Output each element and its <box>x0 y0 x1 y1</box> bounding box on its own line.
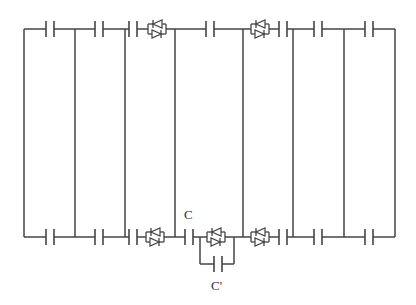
capacitor-icon <box>95 229 103 245</box>
capacitor-icon <box>206 21 214 37</box>
capacitor-icon <box>129 229 137 245</box>
capacitor-icon <box>365 21 373 37</box>
capacitor-icon <box>129 21 137 37</box>
circuit-diagram: C C' <box>0 0 416 305</box>
capacitor-icon <box>279 229 287 245</box>
capacitor-icon <box>314 229 322 245</box>
antiparallel-diode-icon <box>205 228 227 246</box>
capacitor-icon <box>95 21 103 37</box>
antiparallel-diode-icon <box>146 20 168 38</box>
capacitor-icon <box>279 21 287 37</box>
capacitor-icon <box>314 21 322 37</box>
label-c: C <box>184 207 193 222</box>
capacitor-icon <box>46 229 54 245</box>
label-c-prime: C' <box>211 278 222 293</box>
antiparallel-diode-icon <box>249 228 271 246</box>
capacitor-icon <box>365 229 373 245</box>
capacitor-icon <box>46 21 54 37</box>
capacitor-c-icon <box>185 229 193 245</box>
capacitor-c-prime-icon <box>214 256 222 272</box>
antiparallel-diode-icon <box>249 20 271 38</box>
antiparallel-diode-icon <box>144 228 166 246</box>
wires <box>24 29 395 264</box>
